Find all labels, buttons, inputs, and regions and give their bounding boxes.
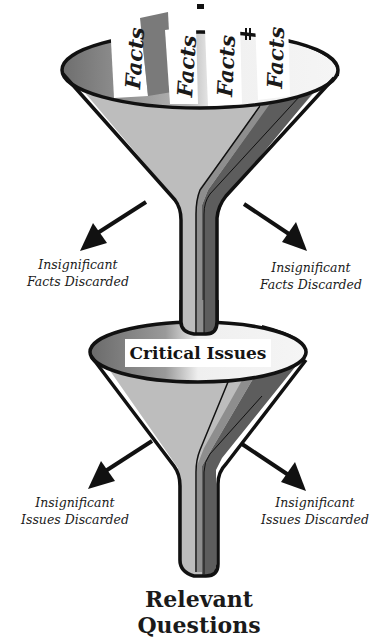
- bottom-left-discard-caption: Insignificant Issues Discarded: [0, 494, 150, 528]
- facts-label-2: Facts: [172, 34, 201, 97]
- output-line-2: Questions: [99, 612, 299, 638]
- arrow-down-right-icon: [244, 204, 307, 251]
- facts-label-3: Facts: [212, 34, 240, 97]
- top-left-discard-caption: Insignificant Facts Discarded: [3, 256, 153, 290]
- arrow-down-right-icon: [242, 444, 306, 491]
- caption-line-2: Facts Discarded: [236, 276, 386, 293]
- output-label: Relevant Questions: [99, 586, 299, 638]
- caption-line-1: Insignificant: [236, 259, 386, 276]
- caption-line-1: Insignificant: [0, 494, 150, 511]
- facts-label-1: Facts: [120, 26, 149, 89]
- arrow-down-left-icon: [88, 441, 152, 489]
- caption-line-2: Issues Discarded: [0, 511, 150, 528]
- caption-line-1: Insignificant: [240, 494, 390, 511]
- top-right-discard-caption: Insignificant Facts Discarded: [236, 259, 386, 293]
- caption-line-2: Issues Discarded: [240, 511, 390, 528]
- output-line-1: Relevant: [99, 586, 299, 612]
- facts-label-4: Facts: [262, 26, 289, 89]
- top-funnel-stem: [181, 300, 217, 334]
- bottom-right-discard-caption: Insignificant Issues Discarded: [240, 494, 390, 528]
- critical-issues-label: Critical Issues: [125, 339, 271, 367]
- caption-line-2: Facts Discarded: [3, 273, 153, 290]
- caption-line-1: Insignificant: [3, 256, 153, 273]
- arrow-down-left-icon: [80, 202, 146, 251]
